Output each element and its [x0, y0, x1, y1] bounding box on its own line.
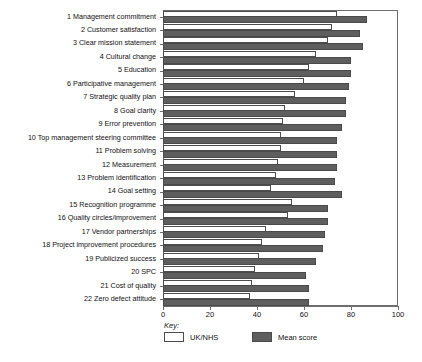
bar-mean-score: [163, 43, 363, 50]
category-label: 15 Recognition programme: [69, 201, 156, 209]
bar-mean-score: [163, 97, 346, 104]
bar-mean-score: [163, 110, 346, 117]
legend-swatch-uk-nhs: [164, 332, 184, 342]
category-label: 9 Error prevention: [98, 120, 156, 128]
bar-rows-container: [163, 10, 398, 306]
category-label: 22 Zero defect attitude: [84, 295, 156, 303]
legend-title: Key:: [164, 321, 179, 330]
category-label: 17 Vendor partnerships: [82, 228, 156, 236]
category-label: 16 Quality circles/improvement: [58, 214, 156, 222]
category-label: 14 Goal setting: [108, 187, 156, 195]
bar-row: [163, 185, 398, 198]
category-label: 1 Management commitment: [67, 13, 156, 21]
category-label: 10 Top management steering committee: [28, 134, 156, 142]
bar-row: [163, 279, 398, 292]
bar-mean-score: [163, 231, 325, 238]
chart-legend: Key: UK/NHS Mean score: [164, 321, 404, 353]
bar-mean-score: [163, 16, 367, 23]
bar-mean-score: [163, 124, 342, 131]
bar-row: [163, 171, 398, 184]
bar-row: [163, 293, 398, 306]
bar-mean-score: [163, 164, 337, 171]
bar-row: [163, 23, 398, 36]
category-label: 5 Education: [118, 66, 156, 74]
category-label: 20 SPC: [131, 268, 156, 276]
bar-row: [163, 10, 398, 23]
x-tick-label: 100: [385, 310, 411, 319]
bar-mean-score: [163, 30, 360, 37]
category-label: 3 Clear mission statement: [73, 39, 156, 47]
bar-row: [163, 37, 398, 50]
category-axis-labels: 1 Management commitment2 Customer satisf…: [0, 10, 161, 306]
bar-row: [163, 266, 398, 279]
bar-mean-score: [163, 218, 328, 225]
category-label: 8 Goal clarity: [114, 107, 156, 115]
bar-mean-score: [163, 70, 351, 77]
bar-mean-score: [163, 83, 349, 90]
category-label: 6 Participative management: [67, 80, 156, 88]
category-label: 21 Cost of quality: [100, 282, 156, 290]
bar-mean-score: [163, 245, 323, 252]
bar-row: [163, 64, 398, 77]
bar-mean-score: [163, 285, 309, 292]
bar-row: [163, 131, 398, 144]
x-tick-label: 0: [150, 310, 176, 319]
bar-mean-score: [163, 137, 337, 144]
bar-mean-score: [163, 191, 342, 198]
legend-swatch-mean-score: [252, 332, 272, 342]
bar-row: [163, 104, 398, 117]
x-tick-label: 80: [338, 310, 364, 319]
category-label: 7 Strategic quality plan: [83, 93, 156, 101]
bar-row: [163, 198, 398, 211]
category-label: 11 Problem solving: [95, 147, 156, 155]
bar-mean-score: [163, 178, 335, 185]
category-label: 13 Problem identification: [77, 174, 156, 182]
legend-label-mean-score: Mean score: [278, 333, 317, 342]
bar-mean-score: [163, 272, 306, 279]
bar-row: [163, 50, 398, 63]
bar-row: [163, 239, 398, 252]
x-tick-label: 40: [244, 310, 270, 319]
bar-row: [163, 118, 398, 131]
bar-mean-score: [163, 258, 316, 265]
bar-mean-score: [163, 205, 328, 212]
bar-row: [163, 158, 398, 171]
bar-row: [163, 252, 398, 265]
bar-row: [163, 212, 398, 225]
bar-mean-score: [163, 57, 351, 64]
category-label: 19 Publicized success: [85, 255, 156, 263]
legend-label-uk-nhs: UK/NHS: [190, 333, 218, 342]
bar-mean-score: [163, 151, 337, 158]
category-label: 12 Measurement: [102, 161, 156, 169]
horizontal-bar-chart: 1 Management commitment2 Customer satisf…: [0, 0, 422, 362]
category-label: 4 Cultural change: [100, 53, 156, 61]
x-tick-label: 20: [197, 310, 223, 319]
x-axis-line: [163, 306, 399, 307]
category-label: 18 Project improvement procedures: [42, 241, 156, 249]
bar-row: [163, 225, 398, 238]
x-tick-label: 60: [291, 310, 317, 319]
bar-row: [163, 77, 398, 90]
bar-mean-score: [163, 299, 309, 306]
category-label: 2 Customer satisfaction: [81, 26, 156, 34]
bar-row: [163, 145, 398, 158]
bar-row: [163, 91, 398, 104]
